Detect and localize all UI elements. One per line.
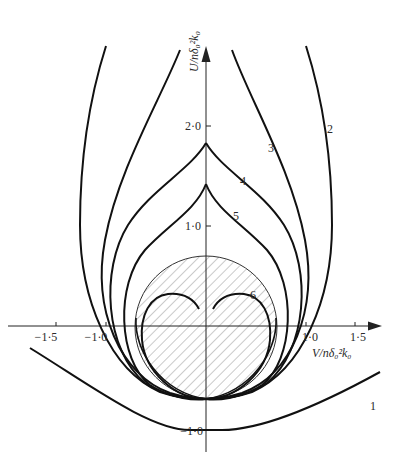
curve-label-3: 3 — [268, 141, 274, 155]
x-axis-label: V/nδ₀²k₀ — [312, 346, 352, 360]
curve-label-1: 1 — [370, 399, 376, 413]
y-tick-label: −1·0 — [180, 424, 203, 438]
curve-label-6: 6 — [250, 288, 256, 302]
x-tick-label: −1·0 — [85, 330, 108, 344]
y-tick-label: 1·0 — [185, 219, 201, 233]
x-tick-label: 1·0 — [302, 330, 318, 344]
y-tick-label: 2·0 — [185, 119, 201, 133]
curve-label-5: 5 — [233, 209, 239, 223]
y-axis-label: U/nδ₀²k₀ — [187, 31, 201, 72]
curve-label-4: 4 — [240, 174, 246, 188]
x-tick-label: 1·5 — [350, 330, 366, 344]
x-tick-label: −1·5 — [35, 330, 58, 344]
curve-label-2: 2 — [327, 122, 333, 136]
diagram-figure: −1·5 −1·0 1·0 1·5 2·0 1·0 −1·0 V/nδ₀²k₀ … — [0, 0, 402, 469]
